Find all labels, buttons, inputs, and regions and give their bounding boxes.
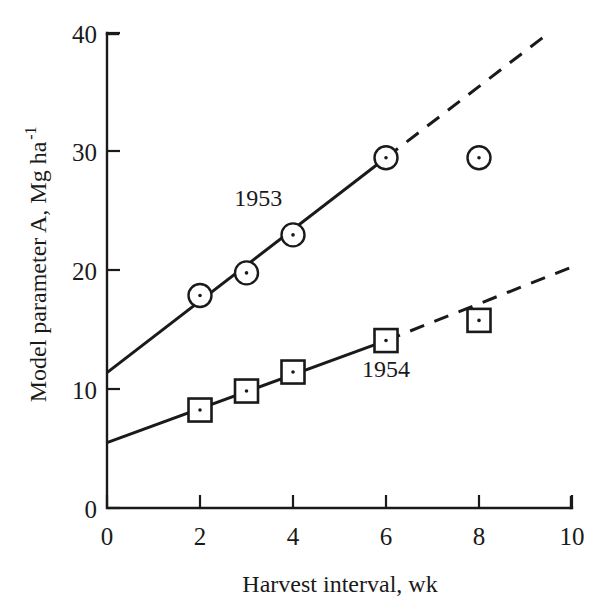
data-point-center-dot: [384, 339, 388, 343]
data-point-center-dot: [291, 233, 295, 237]
y-tick-label-0: 0: [85, 496, 98, 523]
data-point-center-dot: [245, 271, 249, 275]
x-tick-label-6: 6: [380, 523, 393, 550]
x-tick-label-2: 2: [194, 523, 207, 550]
chart-figure: 40 30 20 10 0 0 2 4 6 8 10 1953 1954 Har…: [0, 0, 606, 615]
axis-frame: [107, 33, 572, 508]
x-axis-ticks: [107, 495, 572, 508]
data-markers-1953: [189, 146, 491, 307]
y-tick-label-10: 10: [72, 377, 97, 404]
x-axis-title: Harvest interval, wk: [242, 571, 437, 597]
data-markers-1954: [189, 309, 491, 422]
y-tick-label-30: 30: [72, 139, 97, 166]
data-point-center-dot: [198, 294, 202, 298]
y-axis-ticks: [107, 33, 120, 508]
data-point-center-dot: [384, 156, 388, 160]
data-point-center-dot: [198, 408, 202, 412]
x-tick-label-10: 10: [560, 523, 585, 550]
data-point-center-dot: [291, 370, 295, 374]
x-tick-label-8: 8: [473, 523, 486, 550]
x-tick-label-0: 0: [101, 523, 114, 550]
data-point-center-dot: [477, 156, 481, 160]
y-axis-title-exponent: -1: [22, 126, 39, 139]
series-annotation-1953: 1953: [234, 185, 282, 211]
y-axis-title: Model parameter A, Mg ha: [25, 141, 51, 402]
data-point-center-dot: [477, 319, 481, 323]
x-tick-label-4: 4: [287, 523, 300, 550]
y-tick-label-40: 40: [72, 21, 97, 48]
series-1954: [107, 267, 572, 443]
data-point-center-dot: [245, 389, 249, 393]
y-tick-label-20: 20: [72, 258, 97, 285]
y-axis-title-group: Model parameter A, Mg ha -1: [22, 126, 51, 402]
series-annotation-1954: 1954: [362, 356, 410, 382]
fit-line-1953-extrapolated: [386, 33, 549, 158]
scatter-plot: 40 30 20 10 0 0 2 4 6 8 10 1953 1954 Har…: [0, 0, 606, 615]
